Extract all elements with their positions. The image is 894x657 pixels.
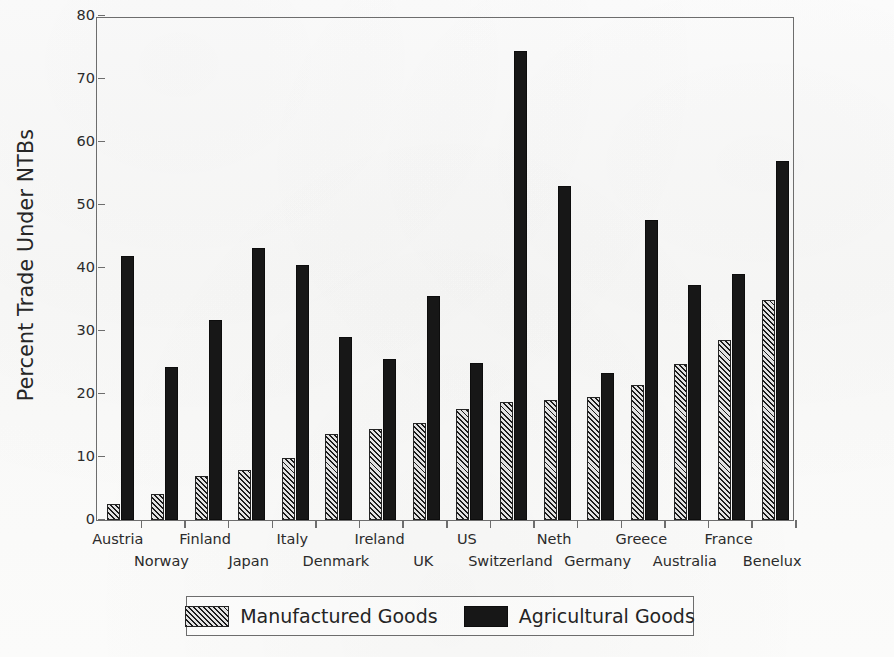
bar-group: [282, 18, 309, 520]
x-axis-label-greece: Greece: [616, 531, 668, 547]
chart-page: Percent Trade Under NTBs 010203040506070…: [0, 0, 894, 657]
y-axis-tick-label: 80: [77, 8, 98, 23]
x-axis-labels: AustriaNorwayFinlandJapanItalyDenmarkIre…: [96, 523, 794, 579]
bar-manufactured: [282, 458, 295, 520]
bar-agricultural: [688, 285, 701, 520]
x-axis-label-benelux: Benelux: [743, 553, 802, 569]
x-axis-tick-mark: [795, 520, 797, 528]
bar-group: [674, 18, 701, 520]
legend-item-agricultural: Agricultural Goods: [464, 605, 695, 627]
x-axis-label-france: France: [704, 531, 752, 547]
bar-manufactured: [107, 504, 120, 520]
x-axis-label-finland: Finland: [179, 531, 231, 547]
chart-legend: Manufactured Goods Agricultural Goods: [186, 596, 694, 636]
bar-group: [762, 18, 789, 520]
x-axis-label-ireland: Ireland: [354, 531, 404, 547]
bar-group: [369, 18, 396, 520]
y-axis-tick-mark: [98, 15, 105, 17]
bar-agricultural: [209, 320, 222, 520]
y-axis-title-text: Percent Trade Under NTBs: [14, 129, 38, 401]
bar-group: [500, 18, 527, 520]
bar-agricultural: [645, 220, 658, 520]
bar-group: [413, 18, 440, 520]
bar-manufactured: [369, 429, 382, 520]
bar-agricultural: [165, 367, 178, 520]
bar-agricultural: [296, 265, 309, 520]
bar-manufactured: [151, 494, 164, 520]
y-axis-tick-label: 10: [77, 449, 98, 464]
bar-manufactured: [674, 364, 687, 520]
bar-manufactured: [544, 400, 557, 520]
bar-group: [587, 18, 614, 520]
bar-agricultural: [776, 161, 789, 520]
bar-agricultural: [558, 186, 571, 520]
bar-manufactured: [325, 434, 338, 520]
x-axis-label-us: US: [457, 531, 477, 547]
bar-manufactured: [238, 470, 251, 520]
x-axis-label-japan: Japan: [228, 553, 268, 569]
bar-agricultural: [732, 274, 745, 520]
bar-group: [238, 18, 265, 520]
x-axis-label-norway: Norway: [134, 553, 189, 569]
bar-agricultural: [252, 248, 265, 520]
bar-manufactured: [195, 476, 208, 520]
bar-manufactured: [500, 402, 513, 520]
bar-group: [151, 18, 178, 520]
x-axis-label-uk: UK: [413, 553, 433, 569]
bar-agricultural: [514, 51, 527, 520]
legend-label-manufactured: Manufactured Goods: [240, 605, 438, 627]
y-axis-tick-label: 20: [77, 386, 98, 401]
legend-item-manufactured: Manufactured Goods: [185, 605, 438, 627]
bar-agricultural: [383, 359, 396, 520]
y-axis-tick: 80: [57, 15, 105, 16]
y-axis-tick-label: 70: [77, 71, 98, 86]
bar-group: [456, 18, 483, 520]
bar-agricultural: [121, 256, 134, 520]
bar-group: [718, 18, 745, 520]
bar-group: [107, 18, 134, 520]
x-axis-label-austria: Austria: [92, 531, 143, 547]
bar-manufactured: [762, 300, 775, 521]
bar-series-container: [97, 18, 793, 520]
y-axis-tick-label: 60: [77, 134, 98, 149]
hatched-swatch-icon: [185, 606, 229, 627]
bar-manufactured: [718, 340, 731, 520]
bar-group: [195, 18, 222, 520]
bar-agricultural: [470, 363, 483, 521]
x-axis-label-neth: Neth: [537, 531, 572, 547]
bar-agricultural: [427, 296, 440, 520]
x-axis-label-denmark: Denmark: [303, 553, 370, 569]
bar-manufactured: [631, 385, 644, 520]
y-axis-title: Percent Trade Under NTBs: [0, 0, 52, 530]
solid-black-swatch-icon: [464, 606, 508, 627]
x-axis-label-australia: Australia: [653, 553, 717, 569]
y-axis-tick-label: 50: [77, 197, 98, 212]
y-axis-tick-label: 40: [77, 260, 98, 275]
bar-group: [544, 18, 571, 520]
y-axis-tick-label: 30: [77, 323, 98, 338]
bar-manufactured: [587, 397, 600, 520]
legend-label-agricultural: Agricultural Goods: [519, 605, 695, 627]
bar-agricultural: [601, 373, 614, 520]
plot-area: 01020304050607080: [96, 17, 794, 521]
bar-group: [631, 18, 658, 520]
x-axis-label-italy: Italy: [277, 531, 308, 547]
bar-manufactured: [456, 409, 469, 521]
bar-group: [325, 18, 352, 520]
x-axis-label-switzerland: Switzerland: [468, 553, 553, 569]
bar-manufactured: [413, 423, 426, 520]
bar-agricultural: [339, 337, 352, 520]
x-axis-label-germany: Germany: [564, 553, 631, 569]
